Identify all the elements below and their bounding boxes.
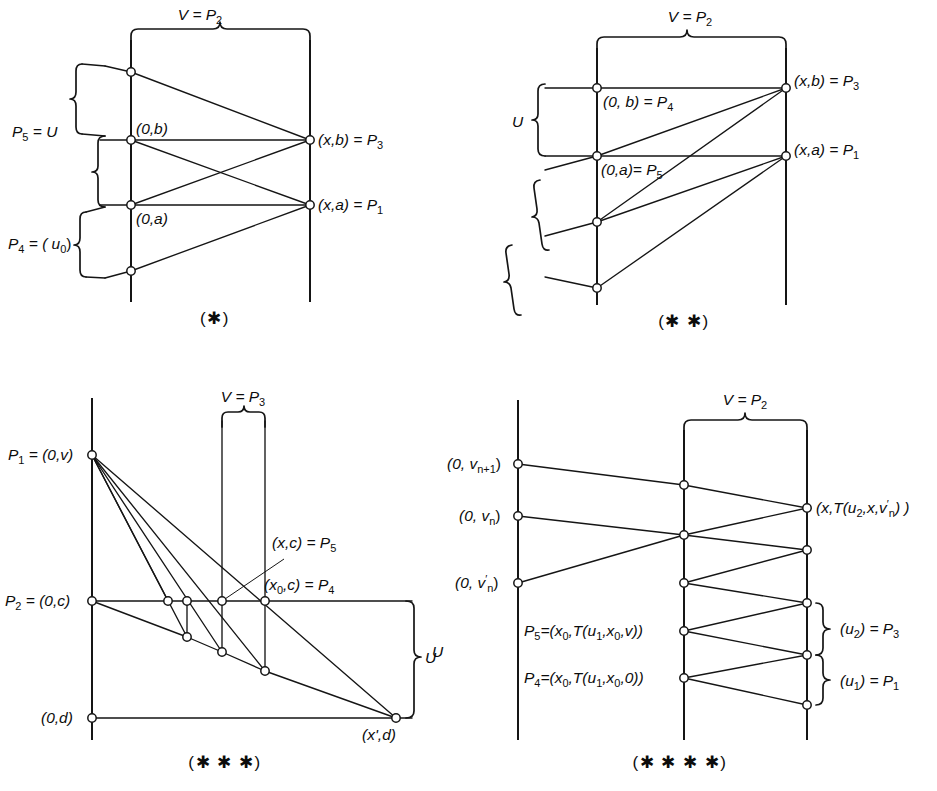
panel-star2: V = P2 U (0, b) = P4 (0,a)= P5 (x,b) = P… bbox=[504, 8, 859, 331]
star3-node-n2 bbox=[183, 597, 191, 605]
star4-label-vn1: (0, vn+1) bbox=[447, 455, 501, 475]
star3-fan-4 bbox=[92, 455, 265, 671]
star4-brace-u2 bbox=[816, 603, 830, 655]
star3-step-4 bbox=[265, 671, 396, 718]
star3-fan-2 bbox=[92, 455, 187, 637]
star1-brace-lower-tie-bot bbox=[86, 277, 105, 278]
star1-node-zero-a bbox=[127, 201, 135, 209]
star3-node-m3 bbox=[261, 667, 269, 675]
star3-label-p2: P2 = (0,c) bbox=[5, 592, 70, 612]
star4-top-brace bbox=[684, 413, 807, 436]
star2-node-zero-a bbox=[593, 152, 601, 160]
star3-step-3 bbox=[222, 652, 265, 671]
star3-node-m1 bbox=[183, 633, 191, 641]
star3-label-xprime-d: (x',d) bbox=[362, 726, 396, 743]
star4-edge-M2-R2 bbox=[684, 535, 807, 550]
star3-fan-3 bbox=[92, 455, 222, 652]
star4-edge-M3-R3 bbox=[684, 583, 807, 603]
star4-label-p4-def: P4=(x0,T(u1,x0,0)) bbox=[524, 669, 644, 689]
star4-node-p5 bbox=[680, 627, 688, 635]
star3-label-zero-d: (0,d) bbox=[41, 709, 73, 726]
star1-caption: (✱) bbox=[200, 309, 230, 328]
star2-top-brace bbox=[597, 30, 786, 54]
star3-step-1 bbox=[92, 601, 187, 637]
star1-node-x-a bbox=[306, 201, 314, 209]
star2-stub-B bbox=[545, 156, 597, 170]
star1-brace-lower-tie-top bbox=[86, 207, 105, 212]
star4-edge-L2-M2 bbox=[518, 516, 684, 535]
star3-label-x0-c-p4: (x0,c) = P4 bbox=[264, 576, 334, 596]
star3-caption: (✱ ✱ ✱) bbox=[188, 753, 261, 772]
star4-label-u-outer: U bbox=[432, 643, 444, 660]
star2-node-zero-b bbox=[593, 84, 601, 92]
panel-star1: V = P2 P5 = U P4 = ( u0) (0,b) (0,a) (x,… bbox=[8, 6, 383, 328]
star3-node-n1 bbox=[164, 597, 172, 605]
star2-caption: (✱ ✱) bbox=[658, 312, 710, 331]
star3-label-x-c-p5: (x,c) = P5 bbox=[272, 534, 336, 554]
star4-node-r5 bbox=[803, 701, 811, 709]
star4-brace-u1 bbox=[816, 655, 830, 705]
star1-label-zero-a: (0,a) bbox=[136, 210, 168, 227]
star4-edge-M5-R4 bbox=[684, 655, 807, 678]
star2-node-D bbox=[593, 284, 601, 292]
star1-label-x-b-p3: (x,b) = P3 bbox=[318, 131, 383, 151]
star2-label-u: U bbox=[512, 113, 524, 130]
star1-node-x-b bbox=[306, 136, 314, 144]
star3-node-m2 bbox=[218, 648, 226, 656]
star3-node-p4 bbox=[261, 597, 269, 605]
star2-brace-u bbox=[532, 84, 545, 156]
star4-node-vn-prime bbox=[514, 579, 522, 587]
star4-label-vn-prime: (0, v′n) bbox=[455, 573, 499, 594]
star4-node-r2 bbox=[803, 546, 811, 554]
star4-label-vn: (0, vn) bbox=[459, 507, 500, 527]
panel-star3: V = P3 P1 = (0,v) P2 = (0,c) (0,d) (x,c)… bbox=[5, 388, 437, 772]
star4-node-m3 bbox=[680, 579, 688, 587]
star1-brace-upper bbox=[70, 64, 82, 134]
star3-right-brace bbox=[406, 601, 421, 718]
star2-stub-D bbox=[545, 277, 597, 288]
star4-edge-L1-M1 bbox=[518, 464, 684, 485]
star4-edge-M2-R1 bbox=[684, 508, 807, 535]
star4-node-p4 bbox=[680, 674, 688, 682]
star4-edge-M5-R5 bbox=[684, 678, 807, 705]
star3-node-p1 bbox=[88, 451, 96, 459]
star4-node-vn bbox=[514, 512, 522, 520]
star3-label-p1: P1 = (0,v) bbox=[8, 446, 73, 466]
star4-edge-M3-R2 bbox=[684, 550, 807, 583]
star4-edge-M4-R3 bbox=[684, 603, 807, 631]
star1-brace-upper-tie-top bbox=[82, 64, 105, 66]
star1-top-brace-label: V = P2 bbox=[178, 6, 222, 26]
star3-node-xprime-d bbox=[392, 714, 400, 722]
star1-label-zero-b: (0,b) bbox=[136, 120, 168, 137]
star1-brace-lower bbox=[74, 212, 86, 277]
star1-node-zero-b bbox=[127, 136, 135, 144]
star4-label-u2-p3: (u2) = P3 bbox=[840, 620, 899, 640]
star1-label-p5-u: P5 = U bbox=[12, 123, 58, 143]
star4-edge-M4-R4 bbox=[684, 631, 807, 655]
star4-top-brace-label: V = P2 bbox=[723, 391, 767, 411]
star2-node-x-b bbox=[782, 84, 790, 92]
star4-caption: (✱ ✱ ✱ ✱) bbox=[633, 753, 728, 772]
star2-label-x-b-p3: (x,b) = P3 bbox=[794, 72, 859, 92]
star2-label-x-a-p1: (x,a) = P1 bbox=[794, 141, 859, 161]
star1-node-D bbox=[127, 267, 135, 275]
star4-node-r3 bbox=[803, 599, 811, 607]
star4-edge-L3-M2 bbox=[518, 535, 684, 583]
star4-label-x-t-u2: (x,T(u2,x,v′n) ) bbox=[816, 498, 910, 519]
star4-label-u1-p1: (u1) = P1 bbox=[840, 672, 899, 692]
star1-node-A bbox=[127, 68, 135, 76]
star3-node-p5 bbox=[218, 597, 226, 605]
star2-node-C bbox=[593, 218, 601, 226]
star4-label-p5-def: P5=(x0,T(u1,x0,v)) bbox=[524, 622, 643, 642]
star2-label-zero-b-p4: (0, b) = P4 bbox=[603, 93, 673, 113]
star2-brace-slant2 bbox=[504, 245, 521, 315]
star2-top-brace-label: V = P2 bbox=[668, 8, 712, 28]
star4-node-r4 bbox=[803, 651, 811, 659]
star2-stub-C bbox=[545, 222, 597, 236]
figure-svg: V = P2 P5 = U P4 = ( u0) (0,b) (0,a) (x,… bbox=[0, 0, 937, 791]
star4-node-m2 bbox=[680, 531, 688, 539]
star3-top-brace bbox=[222, 406, 265, 427]
star1-label-p4-u0: P4 = ( u0) bbox=[8, 235, 72, 255]
star3-node-p2 bbox=[88, 597, 96, 605]
star3-top-brace-label: V = P3 bbox=[221, 388, 265, 408]
